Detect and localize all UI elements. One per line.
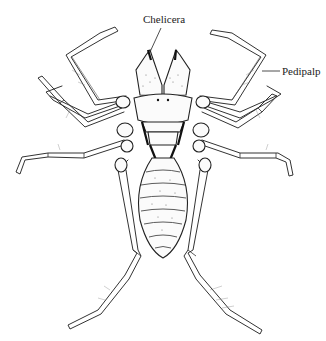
label-pedipalp-text: Pedipalp [282, 65, 321, 77]
thorax [142, 122, 184, 160]
leg-3-left [16, 140, 124, 174]
eye-right [167, 99, 169, 101]
eye-left [157, 99, 159, 101]
pedipalp-left [66, 27, 128, 105]
chelicera-pair [136, 50, 190, 96]
solifugid-illustration: Chelicera Pedipalp [0, 0, 326, 341]
leg-2-right [202, 94, 277, 128]
propeltidium [134, 94, 192, 124]
abdomen [139, 158, 188, 258]
label-chelicera-leader [150, 28, 161, 52]
leg-2-left [38, 76, 124, 127]
leg-4-right [184, 158, 262, 334]
leg-3-right [202, 140, 293, 176]
label-chelicera-text: Chelicera [143, 13, 185, 25]
pedipalp-right [198, 30, 266, 105]
leg-4-left [68, 158, 141, 329]
label-pedipalp: Pedipalp [262, 65, 321, 77]
label-chelicera: Chelicera [143, 13, 185, 52]
